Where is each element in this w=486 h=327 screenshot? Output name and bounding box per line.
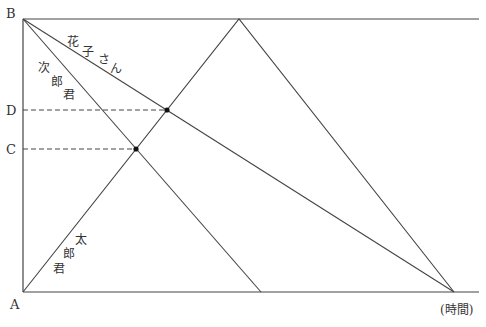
taro-char-1: 太 xyxy=(75,232,87,247)
label-B: B xyxy=(6,6,16,21)
intersection-dot-D xyxy=(164,107,169,112)
diagram-canvas: B D C A (時間) 花 子 さ ん 次 郎 君 太 郎 君 xyxy=(0,0,486,327)
time-axis-label: (時間) xyxy=(440,303,473,317)
hanako-char-2: 子 xyxy=(82,45,94,59)
jiro-line xyxy=(23,19,261,292)
hanako-char-4: ん xyxy=(110,62,122,76)
hanako-char-3: さ xyxy=(98,53,110,67)
label-C: C xyxy=(6,142,16,157)
hanako-char-1: 花 xyxy=(67,34,79,49)
taro-char-3: 君 xyxy=(53,262,65,276)
jiro-char-1: 次 xyxy=(38,61,50,75)
label-D: D xyxy=(6,103,16,118)
jiro-char-3: 君 xyxy=(63,88,75,102)
jiro-char-2: 郎 xyxy=(51,75,63,89)
intersection-dot-C xyxy=(133,146,138,151)
hanako-line xyxy=(23,19,454,292)
label-A: A xyxy=(9,297,20,312)
taro-char-2: 郎 xyxy=(63,247,75,261)
